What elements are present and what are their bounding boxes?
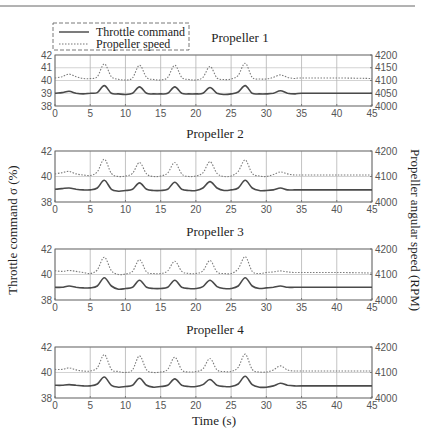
throttle-command-line [55,180,372,191]
x-tick-label: 15 [155,108,167,119]
y-tick-label-left: 42 [41,342,53,353]
y-tick-label-left: 40 [41,367,53,378]
x-tick-label: 5 [87,108,93,119]
y-tick-label-right: 4000 [375,295,398,306]
y-tick-label-right: 4100 [375,75,398,86]
y-tick-label-right: 4000 [375,393,398,404]
y-tick-label-left: 38 [41,197,53,208]
panel-propeller-2: Propeller 205101520253035404538404240004… [41,126,398,215]
y-tick-label-right: 4100 [375,171,398,182]
y-axis-label-right: Propeller angular speed (RPM) [408,149,423,311]
x-tick-label: 0 [52,108,58,119]
x-tick-label: 25 [226,108,238,119]
x-tick-label: 5 [87,302,93,313]
x-tick-label: 0 [52,204,58,215]
y-tick-label-left: 42 [41,244,53,255]
x-tick-label: 15 [155,400,167,411]
panel-title: Propeller 4 [186,322,244,337]
x-tick-label: 35 [296,302,308,313]
y-tick-label-right: 4150 [375,62,398,73]
x-tick-label: 35 [296,204,308,215]
panel-propeller-4: Propeller 405101520253035404538404240004… [41,322,398,411]
x-tick-label: 35 [296,400,308,411]
y-tick-label-left: 39 [41,88,53,99]
x-tick-label: 40 [331,204,343,215]
x-tick-label: 10 [120,400,132,411]
x-tick-label: 15 [155,302,167,313]
x-tick-label: 30 [261,204,273,215]
x-tick-label: 20 [190,302,202,313]
x-tick-label: 40 [331,302,343,313]
panel-propeller-3: Propeller 305101520253035404538404240004… [41,224,398,313]
y-tick-label-left: 38 [41,295,53,306]
x-tick-label: 10 [120,204,132,215]
y-tick-label-right: 4200 [375,342,398,353]
propeller-speed-line [55,63,372,80]
y-tick-label-right: 4200 [375,50,398,61]
y-tick-label-left: 40 [41,269,53,280]
x-tick-label: 25 [226,204,238,215]
y-tick-label-right: 4000 [375,101,398,112]
x-tick-label: 15 [155,204,167,215]
x-tick-label: 40 [331,400,343,411]
x-tick-label: 30 [261,108,273,119]
propeller-speed-line [55,354,372,373]
x-tick-label: 0 [52,302,58,313]
propeller-speed-line [55,257,372,275]
panel-title: Propeller 2 [186,126,243,141]
x-tick-label: 35 [296,108,308,119]
x-tick-label: 10 [120,302,132,313]
y-tick-label-left: 41 [41,62,53,73]
legend: Throttle command Propeller speed [53,23,189,51]
x-tick-label: 30 [261,302,273,313]
y-tick-label-right: 4100 [375,367,398,378]
panel-title: Propeller 1 [211,30,268,45]
y-axis-label-left: Throttle command σ (%) [5,165,20,294]
x-tick-label: 30 [261,400,273,411]
panels: Propeller 105101520253035404538394041424… [41,30,398,411]
x-tick-label: 20 [190,108,202,119]
y-tick-label-left: 38 [41,393,53,404]
x-tick-label: 20 [190,400,202,411]
y-tick-label-right: 4200 [375,244,398,255]
x-tick-label: 10 [120,108,132,119]
x-tick-label: 25 [226,400,238,411]
y-tick-label-right: 4100 [375,269,398,280]
y-tick-label-left: 42 [41,50,53,61]
y-tick-label-left: 38 [41,101,53,112]
throttle-command-line [55,278,372,290]
x-tick-label: 5 [87,204,93,215]
y-tick-label-left: 42 [41,146,53,157]
x-tick-label: 25 [226,302,238,313]
y-tick-label-right: 4000 [375,197,398,208]
y-tick-label-right: 4050 [375,88,398,99]
throttle-command-line [55,376,372,387]
propeller-speed-line [55,159,372,177]
x-tick-label: 20 [190,204,202,215]
x-tick-label: 5 [87,400,93,411]
x-tick-label: 0 [52,400,58,411]
panel-title: Propeller 3 [186,224,243,239]
legend-speed-label: Propeller speed [96,37,170,51]
y-tick-label-left: 40 [41,171,53,182]
y-tick-label-right: 4200 [375,146,398,157]
x-axis-label: Time (s) [192,413,236,428]
figure: Throttle command Propeller speed Propell… [0,0,436,447]
y-tick-label-left: 40 [41,75,53,86]
x-tick-label: 40 [331,108,343,119]
